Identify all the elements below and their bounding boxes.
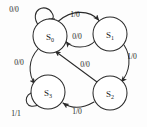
edge-s1-to-s2 [121, 45, 129, 82]
edge-s2-to-s0 [55, 51, 97, 82]
edge-label-s1-to-s2: 1/0 [127, 52, 137, 61]
edge-label-s0-to-s3: 0/0 [14, 58, 24, 67]
edge-s1-to-s0 [66, 41, 95, 47]
edge-label-s1-to-s0: 0/0 [72, 32, 82, 41]
fsm-svg: S0 S1 S2 S3 0/0 1/0 0/0 1/0 0/0 0/0 1/0 … [0, 0, 147, 127]
edge-label-s0-to-s1: 1/0 [70, 10, 80, 19]
edge-label-s3-self-loop: 1/1 [11, 109, 21, 118]
edge-label-s0-self-loop: 0/0 [9, 5, 19, 14]
fsm-diagram-canvas: S0 S1 S2 S3 0/0 1/0 0/0 1/0 0/0 0/0 1/0 … [0, 0, 147, 127]
edge-label-s2-to-s3: 1/0 [72, 107, 82, 116]
edge-label-s2-to-s0: 0/0 [80, 60, 90, 69]
